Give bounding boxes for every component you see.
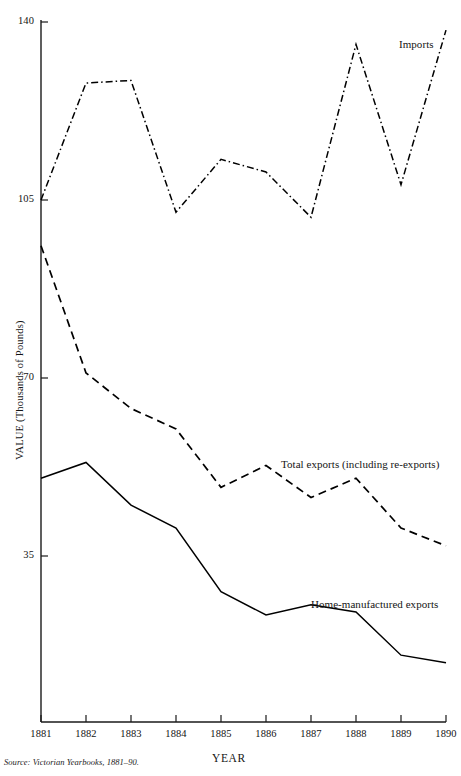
x-tick-label-1881: 1881 [18, 728, 64, 739]
annotation-imports: Imports [399, 38, 434, 50]
series-line-total-exports [41, 246, 446, 546]
annotation-home-manufactured-exports: Home-manufactured exports [311, 598, 438, 610]
source-note: Source: Victorian Yearbooks, 1881–90. [4, 757, 139, 767]
x-tick-label-1887: 1887 [288, 728, 334, 739]
x-tick-marks [41, 715, 446, 722]
series-line-imports [41, 30, 446, 217]
series-line-home-manufactured-exports [41, 462, 446, 662]
annotation-total-exports: Total exports (including re-exports) [281, 458, 439, 470]
x-tick-label-1884: 1884 [153, 728, 199, 739]
x-axis-title: YEAR [212, 752, 246, 764]
x-tick-label-1890: 1890 [423, 728, 461, 739]
y-tick-label-105: 105 [6, 193, 34, 204]
y-axis-title: VALUE (Thousands of Pounds) [14, 320, 25, 460]
x-tick-label-1885: 1885 [198, 728, 244, 739]
y-tick-label-140: 140 [6, 15, 34, 26]
x-tick-label-1882: 1882 [63, 728, 109, 739]
y-tick-label-35: 35 [6, 549, 34, 560]
x-tick-label-1889: 1889 [378, 728, 424, 739]
x-tick-label-1886: 1886 [243, 728, 289, 739]
x-tick-label-1888: 1888 [333, 728, 379, 739]
x-tick-label-1883: 1883 [108, 728, 154, 739]
